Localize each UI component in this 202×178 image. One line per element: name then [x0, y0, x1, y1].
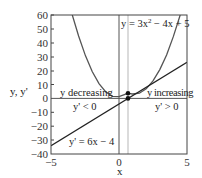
y-axis-label: y, y': [10, 85, 28, 97]
y-increasing-label: y increasing: [147, 87, 194, 98]
minimum-point: [126, 91, 131, 96]
y-tick-labels: 60 50 40 30 20 10 0 −10 −20 −30 −40: [31, 9, 49, 160]
y-tick: −30: [31, 134, 49, 146]
derivative-equation-label: y' = 6x − 4: [69, 136, 115, 147]
yprime-positive-label: y' > 0: [155, 101, 179, 112]
y-tick: 60: [37, 9, 49, 21]
parabola-equation-label: y = 3x2 − 4x + 5: [121, 17, 190, 29]
derivative-zero-point: [126, 96, 131, 101]
yprime-negative-label: y' < 0: [73, 101, 97, 112]
y-tick: −10: [31, 106, 49, 118]
x-tick: 5: [184, 156, 190, 168]
y-tick: 20: [37, 65, 49, 77]
x-axis-label: x: [117, 165, 123, 177]
x-tick: −5: [45, 156, 57, 168]
chart: 60 50 40 30 20 10 0 −10 −20 −30 −40 −5 0…: [0, 0, 202, 178]
y-tick: 30: [37, 51, 49, 63]
y-tick: 40: [37, 37, 49, 49]
y-decreasing-label: y decreasing: [60, 87, 114, 98]
y-tick: 50: [37, 23, 49, 35]
y-tick: 10: [37, 79, 49, 91]
y-tick: 0: [43, 92, 49, 104]
y-tick: −20: [31, 120, 49, 132]
